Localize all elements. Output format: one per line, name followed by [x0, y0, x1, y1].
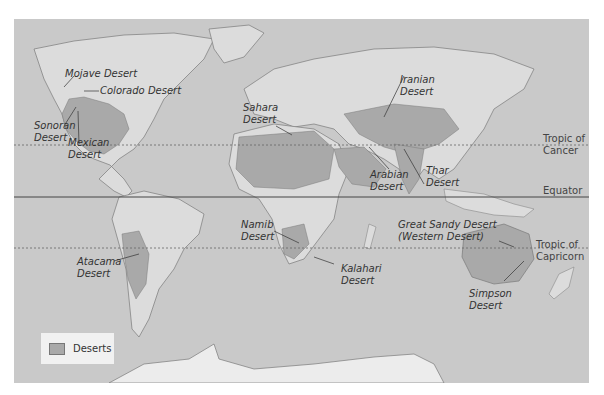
label-tropic-of-cancer: Tropic ofCancer — [543, 133, 585, 157]
label-great-sandy-desert: Great Sandy Desert(Western Desert) — [398, 219, 497, 243]
label-iranian-desert: IranianDesert — [400, 74, 435, 98]
label-mexican-desert: MexicanDesert — [68, 137, 109, 161]
label-colorado-desert: Colorado Desert — [100, 85, 181, 97]
label-equator: Equator — [543, 185, 582, 197]
label-mojave-desert: Mojave Desert — [65, 68, 137, 80]
label-thar-desert: TharDesert — [426, 165, 459, 189]
label-tropic-of-capricorn: Tropic ofCapricorn — [536, 239, 584, 263]
label-namib-desert: NamibDesert — [241, 219, 274, 243]
world-map: Mojave Desert Colorado Desert SonoranDes… — [14, 19, 589, 383]
desert-swatch — [49, 343, 65, 355]
label-sahara-desert: SaharaDesert — [243, 102, 278, 126]
map-legend: Deserts — [41, 333, 114, 364]
label-simpson-desert: SimpsonDesert — [469, 288, 512, 312]
label-arabian-desert: ArabianDesert — [370, 169, 409, 193]
label-atacama-desert: AtacamaDesert — [77, 256, 121, 280]
legend-label: Deserts — [73, 343, 111, 354]
label-kalahari-desert: KalahariDesert — [341, 263, 382, 287]
